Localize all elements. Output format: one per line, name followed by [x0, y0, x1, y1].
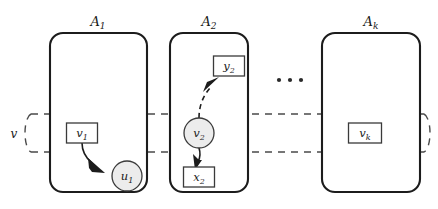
ellipsis-dot-1	[277, 78, 281, 82]
agent-group-2: A2	[170, 14, 248, 192]
node-v2-sub: 2	[199, 133, 205, 142]
ellipsis-dot-2	[288, 78, 292, 82]
agent-label-k-sub: k	[373, 21, 378, 31]
node-x2-sub: 2	[199, 177, 205, 186]
node-y2-sub: 2	[229, 66, 235, 75]
ellipsis-icon	[277, 78, 303, 82]
agent-label-1-base: A	[89, 14, 99, 29]
agent-label-2-sub: 2	[210, 21, 217, 31]
node-u1-sub: 1	[128, 176, 133, 185]
band-right-cap	[424, 114, 430, 152]
agent-label-2: A2	[200, 14, 216, 31]
node-vk: vk	[349, 123, 382, 143]
agent-group-k: Ak	[322, 14, 420, 192]
agent-label-k-base: A	[363, 14, 373, 29]
agent-box-k	[322, 33, 420, 192]
agent-label-k: Ak	[363, 14, 379, 31]
diagram-svg: v A1 A2 Ak	[0, 0, 438, 209]
node-u1-base: u	[121, 169, 128, 183]
node-v1-sub: 1	[83, 133, 88, 142]
node-v2: v2	[184, 118, 214, 148]
node-y2: y2	[214, 56, 245, 76]
agent-label-1-sub: 1	[100, 21, 106, 31]
figure-canvas: v A1 A2 Ak	[0, 0, 438, 209]
node-vk-sub: k	[366, 133, 371, 142]
agent-label-2-base: A	[200, 14, 210, 29]
node-x2: x2	[184, 167, 215, 187]
ellipsis-dot-3	[299, 78, 303, 82]
node-u1: u1	[112, 161, 142, 191]
band-label-v: v	[11, 127, 18, 141]
agent-label-1: A1	[89, 14, 105, 31]
node-v1: v1	[67, 123, 98, 143]
band-left-cap	[25, 114, 31, 152]
